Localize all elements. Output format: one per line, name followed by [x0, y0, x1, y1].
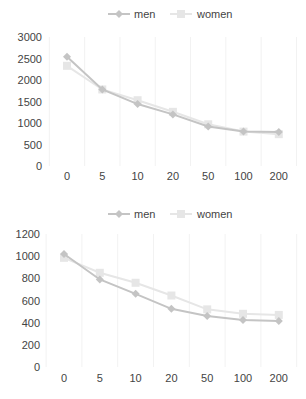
y-tick-label: 200	[22, 339, 40, 351]
data-point-women	[63, 62, 71, 70]
y-tick-label: 3000	[18, 31, 42, 43]
legend-label: men	[134, 8, 155, 20]
gridlines	[49, 37, 296, 166]
data-point-women	[132, 279, 140, 287]
chart-top: 05001000150020002500300005102050100200me…	[0, 0, 306, 199]
legend-item-men: men	[108, 208, 155, 220]
y-tick-label: 1200	[16, 228, 40, 240]
y-tick-label: 400	[22, 317, 40, 329]
x-tick-label: 20	[165, 372, 177, 384]
legend: menwomen	[108, 208, 232, 220]
y-tick-label: 600	[22, 295, 40, 307]
series-line-women	[67, 66, 279, 134]
x-tick-label: 100	[234, 372, 252, 384]
legend-label: men	[134, 208, 155, 220]
legend-marker	[177, 10, 185, 18]
x-tick-label: 20	[167, 170, 179, 182]
x-tick-label: 100	[234, 170, 252, 182]
y-tick-label: 800	[22, 272, 40, 284]
y-tick-label: 0	[36, 160, 42, 172]
y-tick-label: 1000	[16, 250, 40, 262]
gridlines	[46, 234, 297, 367]
x-tick-label: 5	[99, 170, 105, 182]
y-tick-label: 2000	[18, 74, 42, 86]
legend-item-women: women	[170, 8, 232, 20]
x-tick-label: 10	[131, 170, 143, 182]
x-tick-label: 0	[61, 372, 67, 384]
legend: menwomen	[108, 8, 232, 20]
legend-marker	[115, 10, 123, 18]
data-point-men	[132, 290, 140, 298]
data-point-men	[167, 305, 175, 313]
legend-item-men: men	[108, 8, 155, 20]
x-tick-label: 0	[64, 170, 70, 182]
x-tick-label: 10	[129, 372, 141, 384]
x-tick-label: 200	[270, 170, 288, 182]
legend-item-women: women	[170, 208, 232, 220]
series-line-men	[67, 57, 279, 132]
legend-label: women	[196, 8, 232, 20]
legend-label: women	[196, 208, 232, 220]
y-tick-label: 2500	[18, 53, 42, 65]
x-tick-label: 50	[201, 372, 213, 384]
x-tick-label: 200	[270, 372, 288, 384]
y-tick-label: 500	[24, 139, 42, 151]
x-tick-label: 50	[202, 170, 214, 182]
legend-marker	[115, 210, 123, 218]
legend-marker	[177, 210, 185, 218]
series-men	[63, 53, 283, 136]
series-women	[63, 62, 283, 138]
chart-bottom: 02004006008001000120005102050100200menwo…	[0, 199, 306, 399]
y-tick-label: 0	[34, 361, 40, 373]
y-tick-label: 1000	[18, 117, 42, 129]
x-tick-label: 5	[97, 372, 103, 384]
y-tick-label: 1500	[18, 96, 42, 108]
data-point-women	[167, 292, 175, 300]
